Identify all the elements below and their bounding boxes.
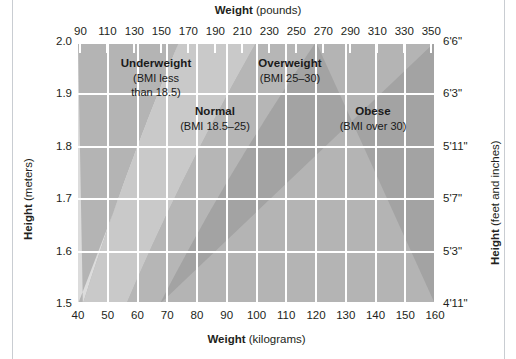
tick-label-m-1.9: 1.9 (30, 87, 72, 99)
tick-label-kg-50: 50 (93, 309, 123, 321)
tick-label-lb-250: 250 (281, 25, 311, 37)
tick-label-ft-5: 4'11" (443, 297, 489, 309)
zone-title-underweight: Underweight (96, 56, 216, 71)
tick-label-kg-60: 60 (123, 309, 153, 321)
gridline-vertical-140 (375, 42, 377, 304)
zone-detail-underweight-line1: (BMI less (96, 71, 216, 85)
tick-mark-lb-190 (214, 42, 216, 53)
tick-mark-lb-150 (160, 42, 162, 53)
zone-title-overweight: Overweight (228, 56, 352, 71)
tick-label-kg-100: 100 (242, 309, 272, 321)
tick-label-m-1.7: 1.7 (30, 192, 72, 204)
gridline-horizontal-1.7 (78, 198, 435, 200)
tick-label-kg-110: 110 (271, 309, 301, 321)
tick-label-kg-160: 160 (420, 309, 450, 321)
gridline-horizontal-2.0 (78, 42, 435, 44)
tick-mark-lb-170 (187, 42, 189, 53)
tick-label-kg-150: 150 (390, 309, 420, 321)
tick-label-kg-80: 80 (182, 309, 212, 321)
tick-label-ft-3: 5'7" (443, 192, 489, 204)
tick-label-lb-190: 190 (200, 25, 230, 37)
tick-label-lb-270: 270 (308, 25, 338, 37)
tick-mark-lb-130 (133, 42, 135, 53)
tick-label-lb-290: 290 (335, 25, 365, 37)
tick-label-lb-210: 210 (227, 25, 257, 37)
zone-label-normal: Normal (BMI 18.5–25) (150, 104, 280, 133)
tick-label-ft-0: 6'6" (443, 35, 489, 47)
top-axis-title-rest: (pounds) (253, 4, 302, 16)
tick-label-lb-350: 350 (416, 25, 446, 37)
gridline-horizontal-1.5 (78, 302, 435, 304)
tick-label-kg-120: 120 (301, 309, 331, 321)
tick-label-lb-110: 110 (92, 25, 122, 37)
top-axis-title: Weight (pounds) (0, 4, 516, 16)
tick-label-ft-2: 5'11" (443, 140, 489, 152)
tick-mark-lb-210 (241, 42, 243, 53)
tick-label-ft-1: 6'3" (443, 87, 489, 99)
tick-label-kg-130: 130 (331, 309, 361, 321)
bmi-chart-figure: Weight (pounds) Weight (kilograms) Heigh… (0, 0, 516, 359)
bottom-axis-title-rest: (kilograms) (246, 333, 306, 345)
gridline-horizontal-1.8 (78, 146, 435, 148)
tick-label-kg-140: 140 (361, 309, 391, 321)
tick-mark-lb-250 (295, 42, 297, 53)
page-rule-right (504, 0, 505, 359)
tick-label-m-1.5: 1.5 (30, 297, 72, 309)
tick-mark-lb-270 (322, 42, 324, 53)
tick-label-m-1.8: 1.8 (30, 140, 72, 152)
tick-label-kg-90: 90 (212, 309, 242, 321)
right-axis-title-rest: (feet and inches) (489, 140, 501, 229)
zone-detail-obese-line1: (BMI over 30) (310, 119, 435, 133)
tick-label-lb-130: 130 (119, 25, 149, 37)
zone-label-underweight: Underweight (BMI less than 18.5) (96, 56, 216, 99)
tick-label-lb-330: 330 (389, 25, 419, 37)
left-axis-title-bold: Height (22, 204, 34, 240)
gridline-vertical-160 (434, 42, 435, 304)
zone-detail-underweight-line2: than 18.5) (96, 85, 216, 99)
plot-area: Underweight (BMI less than 18.5) Normal … (78, 42, 435, 304)
gridline-vertical-150 (404, 42, 406, 304)
tick-mark-lb-350 (430, 42, 432, 53)
bottom-axis-title: Weight (kilograms) (78, 333, 435, 345)
tick-label-lb-170: 170 (173, 25, 203, 37)
zone-label-overweight: Overweight (BMI 25–30) (228, 56, 352, 85)
tick-label-m-2.0: 2.0 (30, 35, 72, 47)
bottom-axis-title-bold: Weight (207, 333, 245, 345)
zone-detail-normal-line1: (BMI 18.5–25) (150, 119, 280, 133)
tick-label-m-1.6: 1.6 (30, 245, 72, 257)
tick-mark-lb-330 (403, 42, 405, 53)
tick-label-lb-150: 150 (146, 25, 176, 37)
zone-label-obese: Obese (BMI over 30) (310, 104, 435, 133)
tick-label-ft-4: 5'3" (443, 245, 489, 257)
page-rule-left (12, 0, 13, 359)
gridline-horizontal-1.6 (78, 251, 435, 253)
tick-label-kg-70: 70 (152, 309, 182, 321)
tick-mark-lb-290 (349, 42, 351, 53)
right-axis-title-bold: Height (489, 229, 501, 265)
tick-mark-lb-110 (106, 42, 108, 53)
right-axis-title: Height (feet and inches) (489, 140, 501, 265)
top-axis-title-bold: Weight (215, 4, 253, 16)
tick-label-lb-230: 230 (254, 25, 284, 37)
tick-mark-lb-310 (376, 42, 378, 53)
zone-detail-overweight-line1: (BMI 25–30) (228, 71, 352, 85)
tick-mark-lb-90 (79, 42, 81, 53)
tick-label-kg-40: 40 (63, 309, 93, 321)
zone-title-obese: Obese (310, 104, 435, 119)
tick-label-lb-310: 310 (362, 25, 392, 37)
tick-mark-lb-230 (268, 42, 270, 53)
zone-title-normal: Normal (150, 104, 280, 119)
